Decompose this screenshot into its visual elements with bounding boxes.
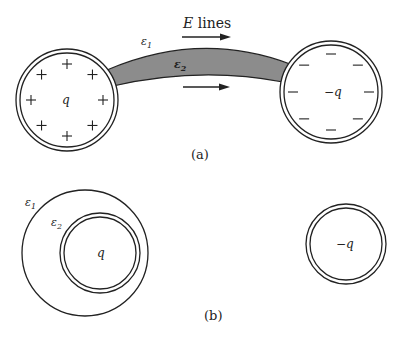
figure-b: q ε1 ε2 −q (b) <box>22 190 386 323</box>
right-sphere-negative: −q <box>280 41 382 143</box>
figure-a: q −q E lines ε1 ε2 (a) <box>16 15 382 162</box>
right-sphere-b: −q <box>306 204 386 284</box>
left-charge-label: q <box>62 93 70 107</box>
left-charge-label-b: q <box>97 246 105 260</box>
epsilon-1-label-b: ε1 <box>25 196 36 211</box>
left-sphere-positive: q <box>16 49 118 151</box>
diagram-canvas: q −q E lines ε1 ε2 (a) <box>0 0 408 340</box>
right-charge-label-b: −q <box>336 237 354 251</box>
dielectric-tube <box>107 48 290 86</box>
e-lines-label: E lines <box>182 15 231 31</box>
right-charge-label: −q <box>324 85 342 99</box>
epsilon-2-label-b: ε2 <box>51 216 62 231</box>
caption-b: (b) <box>204 308 222 323</box>
e-line-arrow-top <box>182 34 231 41</box>
left-sphere-b: q <box>60 213 140 293</box>
caption-a: (a) <box>191 147 209 162</box>
e-line-arrow-bottom <box>183 84 230 91</box>
outer-dielectric-boundary <box>22 190 148 316</box>
epsilon-1-label-a: ε1 <box>141 35 152 50</box>
